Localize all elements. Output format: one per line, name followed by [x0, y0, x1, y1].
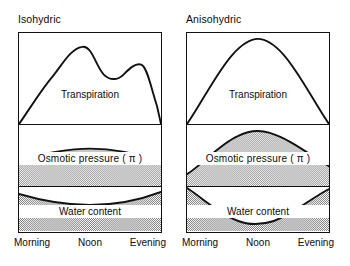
- curve-transpiration-isohydric: [19, 33, 161, 124]
- subplot-water-isohydric: Water content: [19, 187, 161, 231]
- axis-tick-morning: Morning: [182, 237, 218, 248]
- panel-anisohydric: Anisohydric Transpiration: [168, 0, 350, 266]
- axis-tick-noon: Noon: [78, 237, 102, 248]
- curve-water-isohydric: [19, 187, 161, 231]
- curve-transpiration-anisohydric: [187, 33, 329, 124]
- subplot-transpiration-isohydric: Transpiration: [19, 33, 161, 125]
- panel-isohydric: Isohydric Transpiration: [0, 0, 175, 266]
- axis-tick-morning: Morning: [14, 237, 50, 248]
- axis-tick-evening: Evening: [130, 237, 166, 248]
- curve-water-anisohydric: [187, 187, 329, 231]
- plot-frame-anisohydric: Transpiration Osmotic pressure ( π ): [186, 32, 330, 233]
- subplot-transpiration-anisohydric: Transpiration: [187, 33, 329, 125]
- axis-ticks-isohydric: Morning Noon Evening: [14, 237, 166, 248]
- axis-ticks-anisohydric: Morning Noon Evening: [182, 237, 334, 248]
- curve-osmotic-isohydric: [19, 125, 161, 186]
- subplot-water-anisohydric: Water content: [187, 187, 329, 231]
- axis-tick-evening: Evening: [298, 237, 334, 248]
- plot-frame-isohydric: Transpiration Osmotic pressure ( π ): [18, 32, 162, 233]
- panel-title-isohydric: Isohydric: [18, 13, 61, 25]
- axis-tick-noon: Noon: [246, 237, 270, 248]
- figure-root: Isohydric Transpiration: [0, 0, 350, 266]
- panel-title-anisohydric: Anisohydric: [186, 13, 241, 25]
- subplot-osmotic-anisohydric: Osmotic pressure ( π ): [187, 125, 329, 187]
- curve-osmotic-anisohydric: [187, 125, 329, 186]
- subplot-osmotic-isohydric: Osmotic pressure ( π ): [19, 125, 161, 187]
